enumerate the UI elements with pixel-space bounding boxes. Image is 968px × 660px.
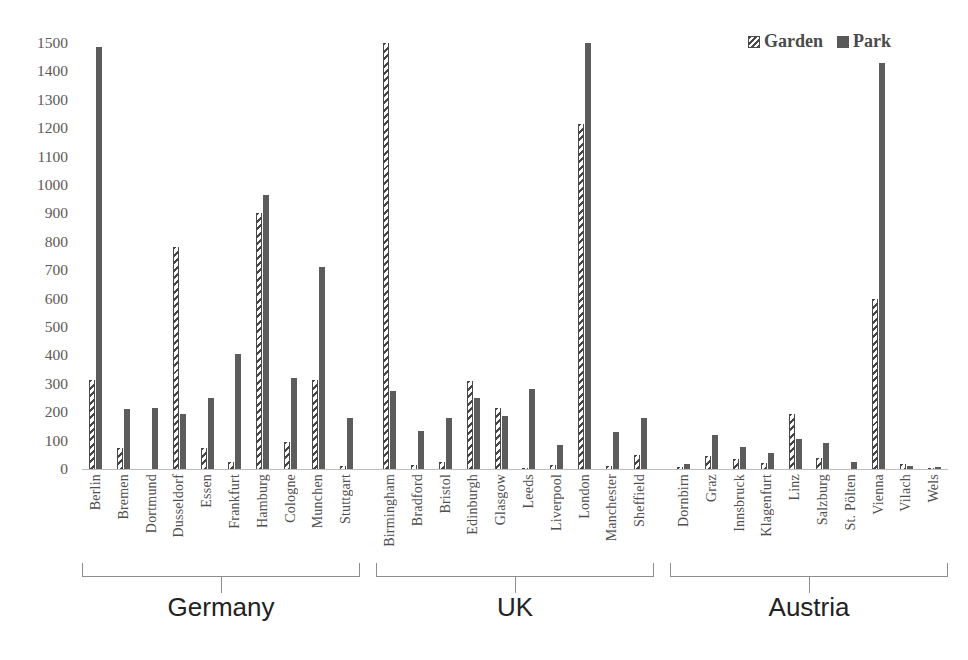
bar-garden bbox=[900, 464, 906, 469]
bar-garden bbox=[383, 43, 389, 469]
x-axis-label: Frankfurt bbox=[228, 474, 242, 529]
x-axis-label: Edinburgh bbox=[466, 474, 480, 535]
country-bracket bbox=[670, 563, 948, 577]
bar-park bbox=[557, 445, 563, 469]
x-axis-label: Salzburg bbox=[816, 474, 830, 525]
y-axis-tick: 1500 bbox=[37, 35, 68, 51]
bar-group bbox=[332, 43, 360, 469]
bar-park bbox=[96, 47, 102, 469]
x-axis-label: Hamburg bbox=[256, 474, 270, 528]
bar-park bbox=[712, 435, 718, 469]
bar-park bbox=[418, 431, 424, 469]
y-axis-tick: 800 bbox=[45, 234, 68, 250]
bar-garden bbox=[284, 442, 290, 469]
x-axis-label: Bristol bbox=[439, 474, 453, 514]
bar-group bbox=[138, 43, 166, 469]
bar-group bbox=[165, 43, 193, 469]
bar-garden bbox=[522, 468, 528, 469]
bar-group bbox=[221, 43, 249, 469]
bar-group bbox=[920, 43, 948, 469]
bar-group bbox=[571, 43, 599, 469]
bar-park bbox=[935, 467, 941, 469]
bar-garden bbox=[256, 213, 262, 469]
bar-garden bbox=[467, 381, 473, 469]
bar-park bbox=[768, 453, 774, 469]
x-axis-label: Dusseldorf bbox=[172, 474, 186, 537]
bar-group bbox=[809, 43, 837, 469]
bar-group bbox=[459, 43, 487, 469]
bracket-stem bbox=[515, 576, 516, 593]
x-axis-label: Sheffield bbox=[633, 474, 647, 527]
x-axis-label: Stuttgart bbox=[339, 474, 353, 524]
bracket-stem bbox=[221, 576, 222, 593]
bar-park bbox=[502, 416, 508, 469]
y-axis-tick: 1000 bbox=[37, 177, 68, 193]
x-axis-label: Klagenfurt bbox=[760, 474, 774, 537]
bar-group bbox=[82, 43, 110, 469]
bar-group bbox=[487, 43, 515, 469]
x-axis-label: Vilach bbox=[899, 474, 913, 512]
bar-garden bbox=[761, 463, 767, 469]
x-axis-label: Wels bbox=[927, 474, 941, 502]
country-label: UK bbox=[497, 592, 533, 623]
bar-park bbox=[263, 195, 269, 469]
bar-group bbox=[432, 43, 460, 469]
y-axis-tick: 300 bbox=[45, 376, 68, 392]
bar-group bbox=[598, 43, 626, 469]
country-label: Germany bbox=[168, 592, 275, 623]
bar-garden bbox=[550, 465, 556, 469]
country-label: Austria bbox=[769, 592, 850, 623]
bar-garden bbox=[340, 466, 346, 469]
bar-garden bbox=[789, 414, 795, 469]
bar-garden bbox=[816, 458, 822, 469]
bar-park bbox=[613, 432, 619, 469]
bar-group bbox=[698, 43, 726, 469]
bar-group bbox=[193, 43, 221, 469]
bar-group bbox=[626, 43, 654, 469]
bar-garden bbox=[312, 380, 318, 469]
bar-group bbox=[543, 43, 571, 469]
bar-garden bbox=[705, 456, 711, 469]
bar-park bbox=[684, 464, 690, 469]
bar-group bbox=[110, 43, 138, 469]
x-axis-label: Dornbirn bbox=[677, 474, 691, 527]
y-axis-tick: 1400 bbox=[37, 64, 68, 80]
bar-group bbox=[404, 43, 432, 469]
x-axis-label: Graz bbox=[705, 474, 719, 502]
x-axis-label: Liverpool bbox=[550, 474, 564, 531]
bar-group bbox=[670, 43, 698, 469]
bar-park bbox=[446, 418, 452, 469]
bar-garden bbox=[578, 124, 584, 469]
x-axis-label: Innsbruck bbox=[733, 474, 747, 532]
bar-park bbox=[319, 267, 325, 469]
y-axis-tick: 100 bbox=[45, 433, 68, 449]
x-axis-label: Essen bbox=[200, 474, 214, 508]
bar-park bbox=[641, 418, 647, 469]
x-axis-label: Leeds bbox=[522, 474, 536, 508]
y-axis-tick: 400 bbox=[45, 348, 68, 364]
bar-group bbox=[515, 43, 543, 469]
x-axis-label: Linz bbox=[788, 474, 802, 500]
bar-garden bbox=[495, 408, 501, 469]
bar-park bbox=[291, 378, 297, 469]
y-axis-tick: 1200 bbox=[37, 120, 68, 136]
bar-garden bbox=[201, 448, 207, 469]
country-bracket bbox=[82, 563, 360, 577]
bracket-stem bbox=[809, 576, 810, 593]
x-axis-label: Bremen bbox=[117, 474, 131, 520]
bar-garden bbox=[228, 462, 234, 469]
bar-group bbox=[892, 43, 920, 469]
bar-park bbox=[474, 398, 480, 469]
bar-garden bbox=[173, 247, 179, 469]
x-axis-label: Dortmund bbox=[145, 474, 159, 533]
bar-park bbox=[208, 398, 214, 469]
x-axis-label: Berlin bbox=[89, 474, 103, 510]
bar-park bbox=[585, 43, 591, 469]
bar-garden bbox=[606, 466, 612, 469]
bar-group bbox=[249, 43, 277, 469]
bar-chart: Garden Park 0100200300400500600700800900… bbox=[0, 0, 968, 660]
bar-group bbox=[304, 43, 332, 469]
y-axis-tick: 1100 bbox=[38, 149, 68, 165]
y-axis-tick: 1300 bbox=[37, 92, 68, 108]
bar-group bbox=[376, 43, 404, 469]
